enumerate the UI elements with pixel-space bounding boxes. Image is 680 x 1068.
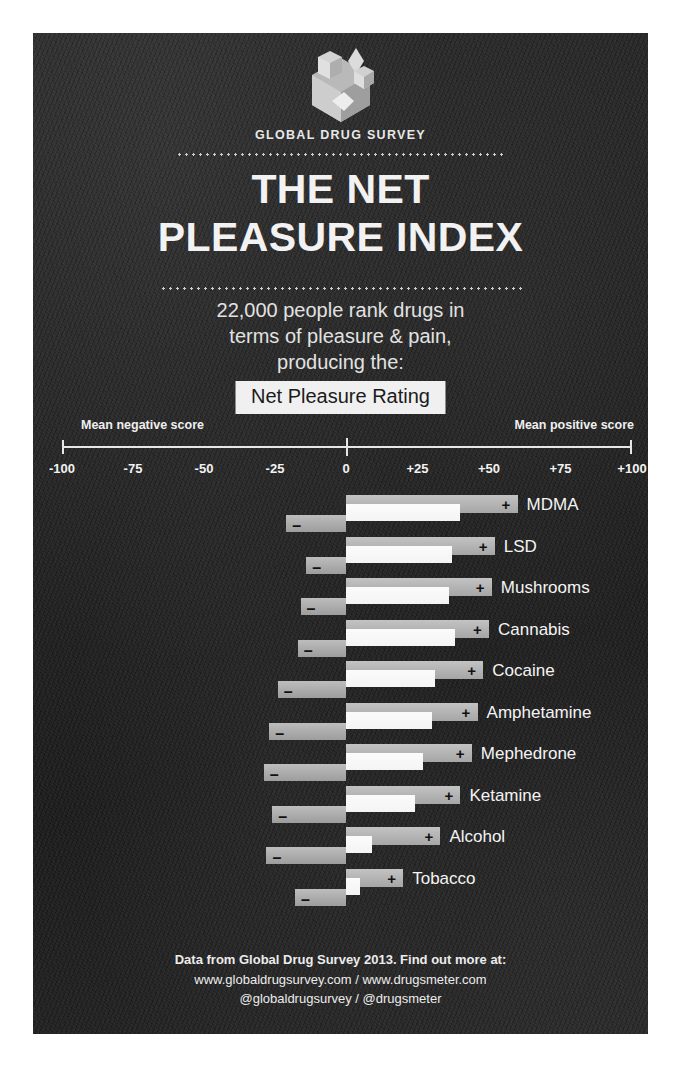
positive-marker-icon: + bbox=[476, 580, 485, 595]
positive-marker-icon: + bbox=[502, 497, 511, 512]
footer-line-2: www.globaldrugsurvey.com / www.drugsmete… bbox=[33, 970, 648, 989]
chart-row: +–Tobacco bbox=[33, 869, 648, 909]
positive-score-bar bbox=[346, 587, 449, 604]
net-pleasure-bar-chart: +–MDMA+–LSD+–Mushrooms+–Cannabis+–Cocain… bbox=[33, 33, 648, 1034]
positive-score-bar bbox=[346, 712, 432, 729]
drug-label: Cocaine bbox=[492, 661, 554, 681]
positive-marker-icon: + bbox=[479, 539, 488, 554]
chart-row: +–MDMA bbox=[33, 495, 648, 535]
chart-row: +–Mushrooms bbox=[33, 578, 648, 618]
positive-score-bar bbox=[346, 878, 360, 895]
drug-label: Alcohol bbox=[449, 827, 505, 847]
poster-panel: GLOBAL DRUG SURVEY THE NET PLEASURE INDE… bbox=[33, 33, 648, 1034]
positive-score-bar bbox=[346, 753, 423, 770]
negative-marker-icon: – bbox=[272, 850, 281, 866]
positive-marker-icon: + bbox=[462, 705, 471, 720]
drug-label: MDMA bbox=[527, 495, 579, 515]
positive-score-bar bbox=[346, 795, 415, 812]
footer: Data from Global Drug Survey 2013. Find … bbox=[33, 950, 648, 1008]
drug-label: Amphetamine bbox=[487, 703, 592, 723]
footer-line-1: Data from Global Drug Survey 2013. Find … bbox=[33, 950, 648, 970]
drug-label: Tobacco bbox=[412, 869, 475, 889]
positive-score-bar bbox=[346, 546, 452, 563]
chart-row: +–Cannabis bbox=[33, 620, 648, 660]
positive-score-bar bbox=[346, 629, 455, 646]
positive-marker-icon: + bbox=[424, 829, 433, 844]
drug-label: Cannabis bbox=[498, 620, 570, 640]
negative-marker-icon: – bbox=[284, 684, 293, 700]
drug-label: Mushrooms bbox=[501, 578, 590, 598]
chart-row: +–Alcohol bbox=[33, 827, 648, 867]
positive-score-bar bbox=[346, 836, 372, 853]
negative-marker-icon: – bbox=[270, 767, 279, 783]
negative-marker-icon: – bbox=[312, 560, 321, 576]
negative-marker-icon: – bbox=[292, 518, 301, 534]
chart-row: +–Ketamine bbox=[33, 786, 648, 826]
chart-row: +–Amphetamine bbox=[33, 703, 648, 743]
positive-marker-icon: + bbox=[444, 788, 453, 803]
positive-score-bar bbox=[346, 670, 435, 687]
positive-marker-icon: + bbox=[456, 746, 465, 761]
negative-marker-icon: – bbox=[307, 601, 316, 617]
negative-marker-icon: – bbox=[275, 726, 284, 742]
drug-label: Mephedrone bbox=[481, 744, 576, 764]
negative-marker-icon: – bbox=[278, 809, 287, 825]
positive-marker-icon: + bbox=[387, 871, 396, 886]
positive-marker-icon: + bbox=[473, 622, 482, 637]
drug-label: LSD bbox=[504, 537, 537, 557]
negative-marker-icon: – bbox=[304, 643, 313, 659]
footer-line-3: @globaldrugsurvey / @drugsmeter bbox=[33, 989, 648, 1008]
positive-marker-icon: + bbox=[467, 663, 476, 678]
chart-row: +–LSD bbox=[33, 537, 648, 577]
infographic-poster: GLOBAL DRUG SURVEY THE NET PLEASURE INDE… bbox=[0, 0, 680, 1068]
chart-row: +–Mephedrone bbox=[33, 744, 648, 784]
negative-marker-icon: – bbox=[301, 892, 310, 908]
chart-row: +–Cocaine bbox=[33, 661, 648, 701]
positive-score-bar bbox=[346, 504, 460, 521]
drug-label: Ketamine bbox=[469, 786, 541, 806]
